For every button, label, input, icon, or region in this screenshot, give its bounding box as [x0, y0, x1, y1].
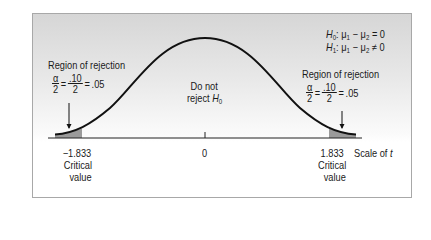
alternative-hypothesis: H1: μ1 − μ2 ≠ 0 [326, 41, 385, 57]
right-region-title: Region of rejection [302, 68, 379, 80]
left-region-title: Region of rejection [48, 59, 125, 71]
left-alpha-equation: α2 = .102 = .05 [52, 73, 104, 94]
do-not-reject-label: Do not reject H0 [187, 80, 222, 108]
left-critical-label: −1.833 Critical value [62, 147, 92, 183]
ten-over-two: .102 [322, 82, 337, 103]
center-tick-label: 0 [202, 147, 207, 159]
x-axis-label: Scale of t [354, 147, 393, 159]
ten-over-two: .102 [68, 73, 83, 94]
alpha-over-two: α2 [52, 73, 59, 94]
right-arrow-icon [340, 111, 345, 129]
right-alpha-equation: α2 = .102 = .05 [306, 82, 358, 103]
right-critical-label: 1.833 Critical value [318, 147, 346, 183]
alpha-over-two: α2 [306, 82, 313, 103]
left-arrow-icon [67, 103, 72, 129]
